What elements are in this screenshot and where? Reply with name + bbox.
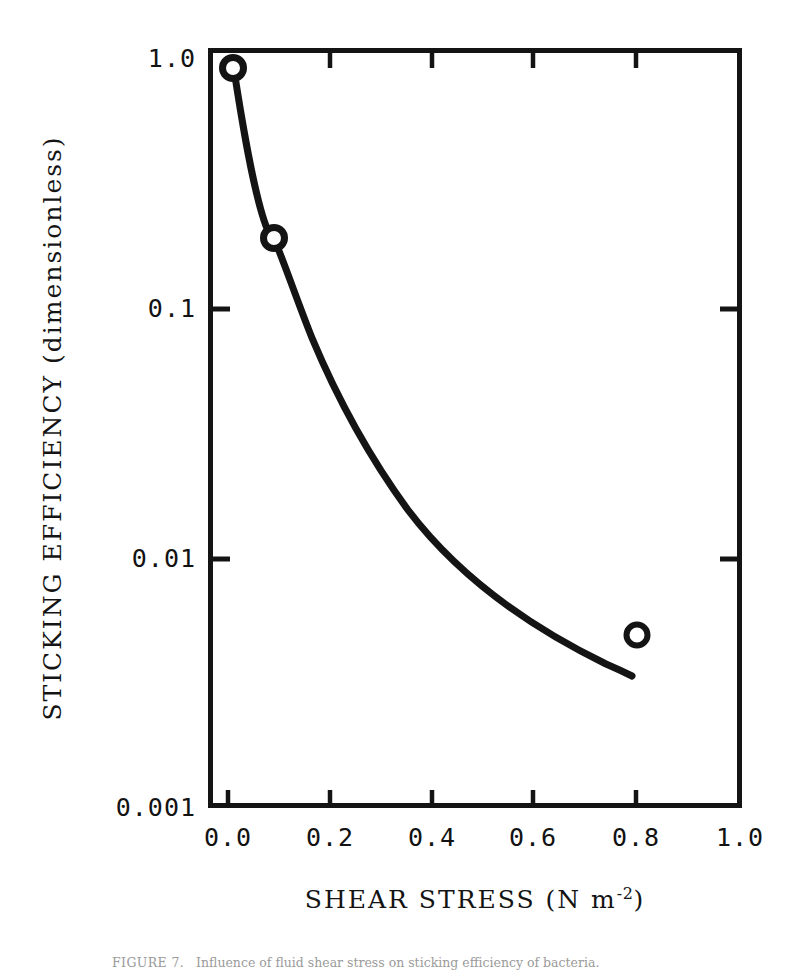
data-point-marker	[223, 58, 244, 79]
data-curve	[234, 70, 632, 676]
x-tick-label-0point4: 0.4	[392, 825, 472, 850]
x-axis-ticks	[228, 790, 636, 805]
x-axis-title: SHEAR STRESS (N m-2)	[208, 884, 742, 914]
figure-caption-text: Influence of fluid shear stress on stick…	[196, 955, 599, 970]
figure-container: 1.0 0.1 0.01 0.001	[0, 0, 805, 973]
x-axis-ticks-top	[330, 51, 636, 68]
plot-area	[208, 48, 742, 808]
y-tick-label-0point001: 0.001	[56, 795, 196, 820]
y-tick-label-0point01: 0.01	[68, 546, 196, 571]
y-tick-label-1: 1.0	[78, 46, 196, 71]
x-tick-label-0point6: 0.6	[493, 825, 573, 850]
x-tick-label-0point2: 0.2	[290, 825, 370, 850]
x-tick-label-0point0: 0.0	[188, 825, 268, 850]
x-tick-label-1point0: 1.0	[700, 825, 780, 850]
data-point-markers	[223, 58, 648, 646]
axis-frame	[211, 51, 740, 806]
figure-caption: FIGURE 7. Influence of fluid shear stres…	[112, 955, 712, 972]
x-tick-label-0point8: 0.8	[596, 825, 676, 850]
y-axis-ticks-right	[720, 309, 739, 559]
x-axis-title-main: SHEAR STRESS (N m	[305, 885, 617, 914]
y-axis-ticks-left	[211, 309, 230, 559]
y-axis-title: STICKING EFFICIENCY (dimensionless)	[30, 48, 76, 808]
x-axis-title-close: )	[633, 885, 645, 914]
x-axis-title-exponent: -2	[617, 884, 634, 903]
figure-caption-label: FIGURE 7.	[112, 955, 184, 970]
y-tick-label-0point1: 0.1	[78, 296, 196, 321]
plot-canvas	[208, 48, 742, 808]
data-point-marker	[627, 625, 648, 646]
data-point-marker	[264, 228, 285, 249]
